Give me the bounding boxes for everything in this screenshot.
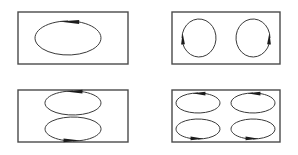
panel-bottom-right <box>168 86 284 146</box>
enclosure-boundary <box>18 90 128 142</box>
panel-top-left-canvas <box>14 8 132 68</box>
panel-bottom-right-canvas <box>168 86 284 146</box>
panel-bottom-left <box>14 86 132 146</box>
panel-top-left <box>14 8 132 68</box>
panel-top-right-canvas <box>168 8 284 68</box>
panel-bottom-left-canvas <box>14 86 132 146</box>
enclosure-boundary <box>172 90 280 142</box>
enclosure-boundary <box>172 12 280 64</box>
panel-top-right <box>168 8 284 68</box>
figure-root <box>0 0 298 155</box>
